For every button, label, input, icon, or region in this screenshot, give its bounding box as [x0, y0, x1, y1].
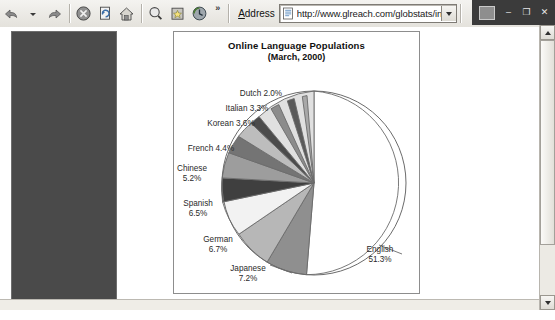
chevron-down-icon — [446, 12, 452, 16]
pie-label-spanish-value: 6.5% — [138, 209, 258, 219]
restore-button[interactable]: ❐ — [519, 6, 534, 19]
page-icon — [282, 7, 295, 20]
vertical-scrollbar[interactable] — [539, 25, 555, 310]
pie-label-german-value: 6.7% — [158, 245, 278, 255]
pie-label-chinese: Chinese 5.2% — [132, 164, 252, 184]
stop-button[interactable] — [73, 2, 93, 25]
pie-label-english: English 51.3% — [350, 245, 410, 265]
horizontal-scrollbar[interactable] — [0, 299, 540, 310]
pie-label-spanish-name: Spanish — [138, 199, 258, 209]
vertical-scrollbar-thumb[interactable] — [540, 40, 555, 245]
scroll-up-button[interactable] — [540, 25, 555, 40]
browser-window: » Address http://www.glreach.com/globsta… — [0, 0, 555, 320]
pie-label-english-value: 51.3% — [350, 255, 410, 265]
back-button[interactable] — [1, 2, 21, 25]
pie-label-dutch: Dutch 2.0% — [196, 89, 326, 99]
left-dark-panel — [11, 31, 117, 305]
pie-label-french: French 4.4% — [146, 144, 276, 154]
minimize-button[interactable]: – — [501, 6, 516, 19]
toolbar-separator-1 — [69, 4, 70, 23]
scroll-down-button[interactable] — [540, 295, 555, 310]
pie-label-german-name: German — [158, 235, 278, 245]
pie-label-chinese-value: 5.2% — [132, 174, 252, 184]
pie-label-spanish: Spanish 6.5% — [138, 199, 258, 219]
app-icon — [479, 6, 495, 20]
chart-container: Online Language Populations (March, 2000… — [173, 31, 420, 294]
toolbar-overflow-chevron[interactable]: » — [210, 4, 225, 13]
favorites-icon[interactable] — [168, 2, 188, 25]
close-button[interactable]: ✕ — [537, 6, 552, 19]
pie-label-german: German 6.7% — [158, 235, 278, 255]
toolbar-separator-3 — [228, 4, 229, 23]
pie-label-japanese-name: Japanese — [188, 264, 308, 274]
address-label: Address — [232, 8, 279, 19]
pie-label-english-name: English — [350, 245, 410, 255]
pie-label-korean: Korean 3.6% — [166, 119, 296, 129]
toolbar-separator-4 — [460, 4, 461, 23]
forward-button[interactable] — [45, 2, 65, 25]
home-button[interactable] — [117, 2, 137, 25]
page-content: Online Language Populations (March, 2000… — [0, 27, 540, 310]
history-icon[interactable] — [189, 2, 209, 25]
toolbar-separator-2 — [141, 4, 142, 23]
search-icon[interactable] — [146, 2, 166, 25]
pie-label-japanese: Japanese 7.2% — [188, 264, 308, 284]
pie-label-chinese-name: Chinese — [132, 164, 252, 174]
refresh-button[interactable] — [95, 2, 115, 25]
arrow-up-icon — [545, 31, 551, 35]
arrow-down-icon — [545, 301, 551, 305]
window-title-strip: – ❐ ✕ — [472, 0, 555, 25]
pie-label-italian: Italian 3.3% — [182, 104, 312, 114]
pie-label-japanese-value: 7.2% — [188, 274, 308, 284]
address-bar[interactable]: http://www.glreach.com/globstats/index.p… — [279, 4, 457, 23]
back-dropdown-button[interactable] — [23, 2, 43, 25]
address-dropdown-button[interactable] — [441, 6, 456, 21]
address-input[interactable]: http://www.glreach.com/globstats/index.p… — [297, 8, 441, 19]
